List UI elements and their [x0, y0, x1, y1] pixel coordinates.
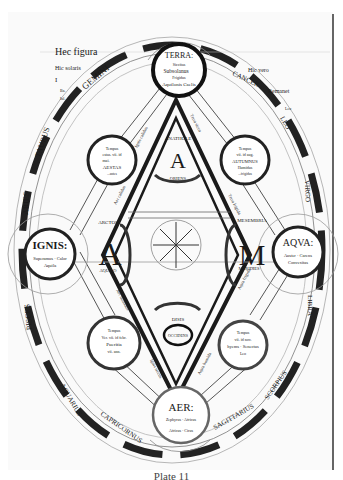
svg-text:vii. id nov.: vii. id nov. — [234, 337, 251, 342]
svg-text:hyems · Senectus: hyems · Senectus — [227, 344, 259, 349]
svg-text:Convexitas: Convexitas — [288, 260, 308, 265]
svg-text:Superamus · Calor: Superamus · Calor — [33, 256, 67, 261]
svg-text:Leo: Leo — [285, 106, 291, 111]
manuscript-page: TERRA: Siccitas Subsolanus Frigidus Aqui… — [0, 0, 343, 480]
svg-text:Hec figura: Hec figura — [55, 46, 98, 57]
svg-text:A: A — [98, 236, 121, 272]
season-upper-right: Tempus vii. id aug. AUTUMNUS Humidus ...… — [221, 136, 269, 184]
svg-text:Siccitas: Siccitas — [173, 62, 186, 67]
svg-text:Aquilonis Caelis: Aquilonis Caelis — [162, 82, 196, 87]
svg-text:ARCTOS: ARCTOS — [98, 220, 118, 225]
season-upper-left: Tempus estas. vii. id mai. AESTAS ...ant… — [88, 136, 136, 184]
svg-text:...antes: ...antes — [107, 172, 117, 176]
svg-text:OCCIDENS: OCCIDENS — [168, 333, 188, 338]
svg-text:mai.: mai. — [103, 158, 110, 163]
svg-text:Tempus: Tempus — [237, 330, 250, 335]
svg-text:DISIS: DISIS — [172, 317, 185, 322]
svg-text:Hic vero: Hic vero — [248, 67, 269, 73]
svg-text:vii. id aug.: vii. id aug. — [236, 152, 253, 157]
svg-text:Tempus: Tempus — [106, 146, 119, 151]
season-lower-left: Tempus Ver. vii. id febr. Pueritia vii. … — [88, 317, 140, 369]
svg-text:Tempus: Tempus — [239, 146, 252, 151]
svg-text:Frigidus: Frigidus — [172, 75, 186, 80]
svg-text:A: A — [170, 148, 186, 173]
svg-text:AER:: AER: — [168, 401, 193, 413]
compass-rose — [151, 220, 201, 270]
svg-text:Africus · Cirus: Africus · Cirus — [169, 428, 193, 433]
svg-text:Aquila: Aquila — [44, 263, 56, 268]
svg-text:Auster · Carens: Auster · Carens — [284, 253, 312, 258]
svg-text:Tempus: Tempus — [108, 328, 121, 333]
plate-caption: Plate 11 — [0, 470, 343, 480]
svg-text:Hic solaris: Hic solaris — [55, 65, 81, 71]
svg-text:AESTAS: AESTAS — [103, 165, 122, 170]
terra-label: TERRA: — [165, 51, 193, 60]
season-lower-right: Tempus vii. id nov. hyems · Senectus Leo — [219, 321, 267, 369]
svg-text:Humidus: Humidus — [238, 165, 253, 170]
svg-text:ARIES: ARIES — [21, 192, 31, 215]
svg-text:IGNIS:: IGNIS: — [33, 239, 68, 251]
svg-text:vii. ann.: vii. ann. — [108, 349, 121, 354]
svg-text:estas. vii. id: estas. vii. id — [102, 152, 121, 157]
svg-text:Iul.: Iul. — [60, 96, 65, 101]
svg-text:ORIENS: ORIENS — [170, 176, 187, 181]
svg-text:Ver. vii. id febr.: Ver. vii. id febr. — [102, 335, 127, 340]
svg-text:Subsolanus: Subsolanus — [163, 68, 188, 74]
diagram-canvas: TERRA: Siccitas Subsolanus Frigidus Aqui… — [0, 0, 343, 480]
svg-text:AQUILO: AQUILO — [99, 268, 117, 273]
svg-text:MESEMBRIA: MESEMBRIA — [237, 218, 267, 223]
svg-text:VIRGO: VIRGO — [303, 180, 312, 202]
svg-text:Ba.: Ba. — [60, 88, 65, 93]
svg-text:AUTUMNUS: AUTUMNUS — [232, 159, 258, 164]
svg-text:ANATHOLE: ANATHOLE — [165, 136, 192, 141]
svg-text:Leo: Leo — [240, 351, 246, 356]
svg-text:...frigidus: ...frigidus — [238, 172, 252, 176]
svg-text:Remanet: Remanet — [268, 88, 290, 94]
svg-text:Zephyrus · Africus: Zephyrus · Africus — [166, 417, 197, 422]
svg-text:LIBRA: LIBRA — [306, 295, 314, 316]
svg-text:AQVA:: AQVA: — [283, 237, 313, 248]
svg-text:Pueritia: Pueritia — [106, 342, 122, 347]
